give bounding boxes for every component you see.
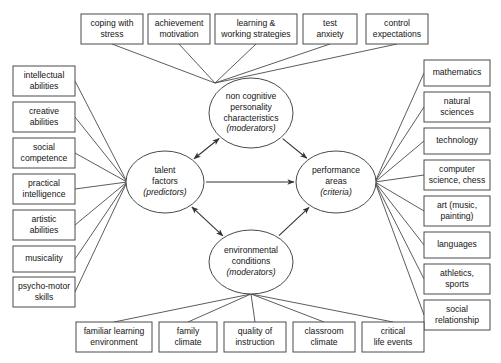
node-box-computer-science-chess[interactable]: computerscience, chess [424, 160, 490, 190]
box-label-musicality: musicality [25, 253, 63, 263]
node-box-family-climate[interactable]: familyclimate [159, 322, 217, 352]
node-box-technology[interactable]: technology [424, 128, 490, 154]
box-label-natural-sciences: natural [444, 96, 470, 106]
node-box-languages[interactable]: languages [424, 232, 490, 258]
box-label-test-anxiety: anxiety [316, 29, 344, 39]
node-box-intellectual-abilities[interactable]: intellectualabilities [13, 66, 75, 96]
node-box-natural-sciences[interactable]: naturalsciences [424, 92, 490, 122]
node-box-control-expectations[interactable]: controlexpectations [366, 14, 428, 44]
ellipse-label-performance-areas: areas [325, 176, 347, 186]
box-label-quality-of-instruction: instruction [235, 337, 274, 347]
diagram-root: non cognitivepersonalitycharacteristics(… [0, 0, 501, 363]
box-label-critical-life-events: critical [381, 326, 405, 336]
node-box-classroom-climate[interactable]: classroomclimate [293, 322, 355, 352]
relation-talent-to-non-cognitive [194, 139, 219, 159]
connector-classroom-climate-to-environmental [251, 294, 324, 322]
connector-psycho-motor-skills-to-talent-factors [75, 182, 127, 292]
diagram-canvas: non cognitivepersonalitycharacteristics(… [0, 0, 501, 363]
connector-natural-sciences-to-performance-areas [375, 107, 424, 182]
box-label-mathematics: mathematics [433, 67, 482, 77]
connector-achievement-motivation-to-non-cognitive [179, 44, 215, 83]
relation-non-cognitive-to-performance [283, 139, 307, 159]
node-box-test-anxiety[interactable]: testanxiety [303, 14, 357, 44]
box-label-classroom-climate: climate [310, 337, 337, 347]
connector-mathematics-to-performance-areas [375, 73, 424, 182]
ellipse-sublabel-talent-factors: (predictors) [143, 187, 187, 197]
node-box-athletics-sports[interactable]: athletics,sports [424, 264, 490, 294]
node-box-social-relationship[interactable]: socialrelationship [424, 300, 490, 330]
node-box-psycho-motor-skills[interactable]: psycho-motorskills [13, 277, 75, 307]
ellipse-label-non-cognitive-personality-characteristics: non cognitive [226, 91, 277, 101]
box-label-family-climate: climate [174, 337, 201, 347]
ellipse-label-environmental-conditions: environmental [224, 245, 278, 255]
node-box-coping-with-stress[interactable]: coping withstress [81, 14, 143, 44]
connector-control-expectations-to-non-cognitive [215, 44, 397, 83]
box-label-coping-with-stress: stress [101, 29, 124, 39]
ellipse-sublabel-non-cognitive-personality-characteristics: (moderators) [226, 123, 275, 133]
connector-family-climate-to-environmental [188, 294, 251, 322]
box-label-intellectual-abilities: abilities [30, 81, 59, 91]
relation-environmental-to-performance [279, 207, 309, 235]
box-label-artistic-abilities: abilities [30, 225, 59, 235]
node-ellipse-non-cognitive-personality-characteristics[interactable]: non cognitivepersonalitycharacteristics(… [209, 78, 293, 148]
box-label-creative-abilities: creative [29, 106, 59, 116]
box-label-learning-and-working-strategies: learning & [237, 18, 276, 28]
box-label-familiar-learning-environment: familiar learning [84, 326, 145, 336]
connector-coping-with-stress-to-non-cognitive [112, 44, 215, 83]
box-label-technology: technology [436, 135, 478, 145]
connector-creative-abilities-to-talent-factors [75, 117, 127, 182]
relation-talent-to-environmental [192, 207, 223, 236]
relation-layer [192, 139, 309, 236]
box-label-art-music-painting: painting) [441, 211, 474, 221]
node-box-musicality[interactable]: musicality [13, 246, 75, 272]
box-label-social-relationship: social [446, 304, 468, 314]
box-label-languages: languages [437, 239, 477, 249]
node-ellipse-environmental-conditions[interactable]: environmentalconditions(moderators) [209, 230, 293, 294]
ellipse-sublabel-performance-areas: (criteria) [320, 187, 352, 197]
box-label-psycho-motor-skills: skills [35, 292, 54, 302]
node-box-art-music-painting[interactable]: art (music,painting) [424, 196, 490, 226]
node-box-learning-and-working-strategies[interactable]: learning &working strategies [215, 14, 297, 44]
box-label-quality-of-instruction: quality of [238, 326, 273, 336]
ellipse-label-performance-areas: performance [312, 165, 360, 175]
ellipse-label-non-cognitive-personality-characteristics: personality [230, 102, 272, 112]
connector-test-anxiety-to-non-cognitive [215, 44, 330, 83]
ellipse-label-talent-factors: factors [152, 176, 178, 186]
node-layer: non cognitivepersonalitycharacteristics(… [13, 14, 490, 352]
node-ellipse-talent-factors[interactable]: talentfactors(predictors) [126, 151, 204, 213]
ellipse-label-talent-factors: talent [154, 165, 176, 175]
box-label-creative-abilities: abilities [30, 117, 59, 127]
box-label-practical-intelligence: intelligence [23, 189, 66, 199]
node-box-mathematics[interactable]: mathematics [424, 60, 490, 86]
box-label-control-expectations: expectations [373, 29, 421, 39]
box-label-natural-sciences: sciences [440, 107, 473, 117]
box-label-familiar-learning-environment: environment [90, 337, 138, 347]
node-box-familiar-learning-environment[interactable]: familiar learningenvironment [76, 322, 152, 352]
node-box-quality-of-instruction[interactable]: quality ofinstruction [224, 322, 286, 352]
box-label-control-expectations: control [384, 18, 410, 28]
connector-familiar-learning-environment-to-environmental [114, 294, 251, 322]
box-label-social-relationship: relationship [435, 315, 479, 325]
node-box-social-competence[interactable]: socialcompetence [13, 138, 75, 168]
node-box-critical-life-events[interactable]: criticallife events [362, 322, 424, 352]
box-label-test-anxiety: test [323, 18, 337, 28]
ellipse-label-non-cognitive-personality-characteristics: characteristics [224, 113, 279, 123]
box-label-achievement-motivation: achievement [155, 18, 204, 28]
box-label-psycho-motor-skills: psycho-motor [18, 281, 70, 291]
box-label-athletics-sports: athletics, [440, 268, 474, 278]
box-label-achievement-motivation: motivation [159, 29, 198, 39]
connector-quality-of-instruction-to-environmental [251, 294, 255, 322]
box-label-computer-science-chess: science, chess [429, 175, 485, 185]
connector-learning-and-working-strategies-to-non-cognitive [215, 44, 256, 83]
node-box-achievement-motivation[interactable]: achievementmotivation [148, 14, 210, 44]
box-label-learning-and-working-strategies: working strategies [220, 29, 290, 39]
box-label-social-competence: social [33, 142, 55, 152]
node-box-practical-intelligence[interactable]: practicalintelligence [13, 174, 75, 204]
node-box-artistic-abilities[interactable]: artisticabilities [13, 210, 75, 240]
node-ellipse-performance-areas[interactable]: performanceareas(criteria) [296, 151, 376, 213]
box-label-practical-intelligence: practical [28, 178, 60, 188]
box-label-athletics-sports: sports [445, 279, 468, 289]
connector-artistic-abilities-to-talent-factors [75, 182, 127, 225]
node-box-creative-abilities[interactable]: creativeabilities [13, 102, 75, 132]
connector-musicality-to-talent-factors [75, 182, 127, 259]
